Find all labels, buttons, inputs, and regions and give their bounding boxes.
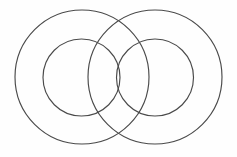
left-inner-circle <box>43 39 120 116</box>
left-outer-circle <box>15 10 149 144</box>
right-outer-circle <box>88 10 222 144</box>
circles-diagram <box>0 0 237 157</box>
figure-canvas <box>0 0 237 157</box>
right-inner-circle <box>117 39 194 116</box>
